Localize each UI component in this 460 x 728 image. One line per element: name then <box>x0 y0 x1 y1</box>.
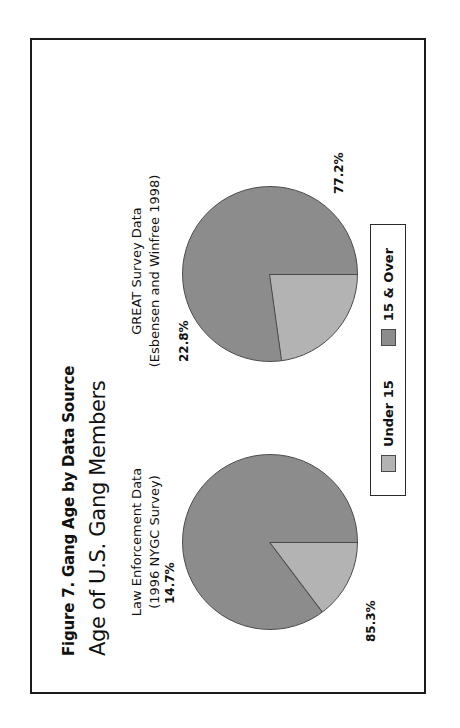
rotated-figure-container: Figure 7. Gang Age by Data Source Age of… <box>30 34 430 694</box>
panel-caption-right-line2: (Esbensen and Winfree 1998) <box>146 146 164 396</box>
legend-entry-under-15: Under 15 <box>381 380 396 472</box>
chart-legend: Under 15 15 & Over <box>370 224 406 496</box>
figure-title: Figure 7. Gang Age by Data Source <box>60 366 78 656</box>
pie-left-slice-boundary-start <box>270 542 357 543</box>
pie-chart-law-enforcement <box>182 454 358 630</box>
legend-entry-15-and-over: 15 & Over <box>381 248 396 346</box>
panel-caption-left-line1: Law Enforcement Data <box>128 422 146 662</box>
panel-caption-left-line2: (1996 NYGC Survey) <box>146 422 164 662</box>
legend-swatch-15-and-over-icon <box>381 329 396 346</box>
panel-caption-right: GREAT Survey Data (Esbensen and Winfree … <box>128 146 163 396</box>
panel-caption-right-line1: GREAT Survey Data <box>128 146 146 396</box>
legend-swatch-under-15-icon <box>381 455 396 472</box>
pie-right-slice-boundary-start <box>270 274 357 275</box>
panel-caption-left: Law Enforcement Data (1996 NYGC Survey) <box>128 422 163 662</box>
figure-frame: Figure 7. Gang Age by Data Source Age of… <box>30 38 426 694</box>
pie-left-label-under15: 14.7% <box>163 562 177 604</box>
figure-subtitle: Age of U.S. Gang Members <box>86 380 110 656</box>
figure-page: Figure 7. Gang Age by Data Source Age of… <box>0 0 460 728</box>
legend-label-15-and-over: 15 & Over <box>381 248 396 321</box>
pie-chart-great-survey <box>182 186 358 362</box>
legend-label-under-15: Under 15 <box>381 380 396 447</box>
pie-left-slice-boundary-end <box>269 542 322 612</box>
pie-left-label-15andover: 85.3% <box>364 600 378 642</box>
pie-right-slice-boundary-end <box>269 274 282 360</box>
pie-right-label-under15: 22.8% <box>177 320 191 362</box>
pie-right-label-15andover: 77.2% <box>332 152 346 194</box>
